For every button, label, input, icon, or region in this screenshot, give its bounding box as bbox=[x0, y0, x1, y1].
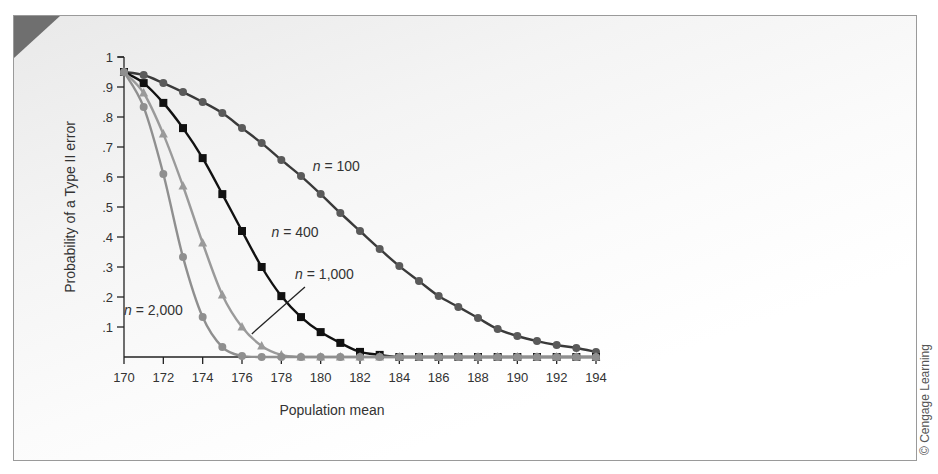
y-tick-label: 1 bbox=[106, 50, 113, 65]
series-label: n = 100 bbox=[313, 158, 360, 174]
data-point-circle bbox=[258, 353, 266, 361]
data-point-square bbox=[258, 263, 266, 271]
data-point-triangle bbox=[179, 181, 188, 190]
series-line bbox=[124, 72, 596, 357]
x-tick-label: 192 bbox=[546, 370, 568, 385]
y-tick-label: .5 bbox=[102, 200, 113, 215]
data-point-circle bbox=[395, 353, 403, 361]
data-point-square bbox=[159, 99, 167, 107]
data-point-triangle bbox=[198, 238, 207, 247]
data-point-circle bbox=[317, 190, 325, 198]
data-point-circle bbox=[277, 156, 285, 164]
axes: .1.2.3.4.5.6.7.8.91170172174176178180182… bbox=[102, 50, 607, 385]
data-point-square bbox=[317, 328, 325, 336]
x-tick-label: 178 bbox=[270, 370, 292, 385]
data-point-circle bbox=[376, 353, 384, 361]
data-point-circle bbox=[159, 170, 167, 178]
x-tick-label: 190 bbox=[506, 370, 528, 385]
series-label: n = 1,000 bbox=[295, 266, 354, 282]
data-point-circle bbox=[238, 352, 246, 360]
data-point-square bbox=[336, 339, 344, 347]
data-point-circle bbox=[533, 337, 541, 345]
data-point-circle bbox=[415, 277, 423, 285]
x-tick-label: 188 bbox=[467, 370, 489, 385]
data-point-circle bbox=[513, 353, 521, 361]
data-point-circle bbox=[199, 313, 207, 321]
data-point-square bbox=[199, 154, 207, 162]
data-point-circle bbox=[356, 353, 364, 361]
x-tick-label: 186 bbox=[428, 370, 450, 385]
data-point-circle bbox=[218, 109, 226, 117]
data-point-circle bbox=[199, 98, 207, 106]
series-group bbox=[120, 67, 601, 361]
data-point-circle bbox=[277, 353, 285, 361]
data-point-circle bbox=[592, 353, 600, 361]
data-point-square bbox=[140, 79, 148, 87]
data-point-circle bbox=[454, 353, 462, 361]
data-point-triangle bbox=[218, 290, 227, 299]
x-tick-label: 170 bbox=[113, 370, 135, 385]
data-point-circle bbox=[140, 71, 148, 79]
chart-plot: .1.2.3.4.5.6.7.8.91170172174176178180182… bbox=[0, 0, 938, 474]
x-tick-label: 174 bbox=[192, 370, 214, 385]
series-label: n = 2,000 bbox=[124, 302, 183, 318]
data-point-circle bbox=[218, 343, 226, 351]
data-point-circle bbox=[415, 353, 423, 361]
data-point-circle bbox=[435, 353, 443, 361]
data-point-circle bbox=[258, 139, 266, 147]
y-tick-label: .3 bbox=[102, 260, 113, 275]
data-point-circle bbox=[336, 209, 344, 217]
data-point-circle bbox=[140, 103, 148, 111]
data-point-square bbox=[297, 313, 305, 321]
data-point-circle bbox=[435, 292, 443, 300]
data-point-circle bbox=[376, 245, 384, 253]
series-n1000 bbox=[120, 67, 601, 361]
x-tick-label: 180 bbox=[310, 370, 332, 385]
data-point-circle bbox=[513, 332, 521, 340]
y-tick-label: .1 bbox=[102, 320, 113, 335]
y-tick-label: .4 bbox=[102, 230, 113, 245]
series-line bbox=[124, 72, 596, 357]
x-axis-label: Population mean bbox=[279, 402, 384, 418]
data-point-square bbox=[218, 190, 226, 198]
data-point-square bbox=[277, 292, 285, 300]
data-point-circle bbox=[454, 303, 462, 311]
y-tick-label: .8 bbox=[102, 110, 113, 125]
data-point-circle bbox=[297, 172, 305, 180]
data-point-circle bbox=[474, 353, 482, 361]
data-point-circle bbox=[159, 79, 167, 87]
data-point-circle bbox=[179, 88, 187, 96]
data-point-circle bbox=[572, 344, 580, 352]
x-tick-label: 172 bbox=[152, 370, 174, 385]
series-labels: n = 100n = 400n = 1,000n = 2,000 bbox=[124, 158, 360, 334]
data-point-square bbox=[238, 227, 246, 235]
data-point-circle bbox=[494, 325, 502, 333]
data-point-circle bbox=[120, 68, 128, 76]
x-tick-label: 184 bbox=[388, 370, 410, 385]
y-tick-label: .6 bbox=[102, 170, 113, 185]
data-point-circle bbox=[553, 341, 561, 349]
data-point-circle bbox=[533, 353, 541, 361]
data-point-circle bbox=[317, 353, 325, 361]
data-point-circle bbox=[494, 353, 502, 361]
y-axis-label: Probability of a Type II error bbox=[62, 121, 78, 293]
x-tick-label: 176 bbox=[231, 370, 253, 385]
series-line bbox=[124, 72, 596, 352]
data-point-circle bbox=[179, 253, 187, 261]
data-point-circle bbox=[572, 353, 580, 361]
data-point-circle bbox=[336, 353, 344, 361]
copyright-credit: © Cengage Learning bbox=[918, 344, 932, 455]
y-tick-label: .7 bbox=[102, 140, 113, 155]
series-line bbox=[124, 72, 596, 357]
data-point-triangle bbox=[159, 129, 168, 138]
x-tick-label: 194 bbox=[585, 370, 607, 385]
data-point-square bbox=[179, 124, 187, 132]
data-point-circle bbox=[356, 227, 364, 235]
series-label: n = 400 bbox=[272, 224, 319, 240]
data-point-circle bbox=[238, 124, 246, 132]
y-tick-label: .9 bbox=[102, 80, 113, 95]
data-point-circle bbox=[297, 353, 305, 361]
x-tick-label: 182 bbox=[349, 370, 371, 385]
data-point-circle bbox=[474, 314, 482, 322]
y-tick-label: .2 bbox=[102, 290, 113, 305]
